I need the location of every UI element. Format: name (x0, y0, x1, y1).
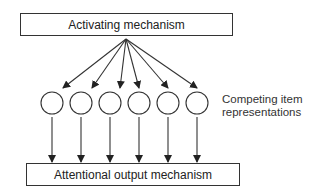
attentional-output-mechanism-box: Attentional output mechanism (26, 163, 240, 186)
side-label-line-2: representations (222, 106, 303, 119)
item-node-4 (128, 92, 150, 114)
item-node-6 (186, 92, 208, 114)
activating-mechanism-label: Activating mechanism (68, 18, 185, 32)
item-node-5 (157, 92, 179, 114)
side-label-line-1: Competing item (222, 93, 303, 106)
activating-mechanism-box: Activating mechanism (20, 13, 233, 36)
item-node-2 (70, 92, 92, 114)
item-node-3 (99, 92, 121, 114)
arrow-activating-to-item-1 (63, 39, 126, 88)
competing-item-representations-label: Competing item representations (222, 93, 303, 119)
item-node-1 (41, 92, 63, 114)
attentional-output-mechanism-label: Attentional output mechanism (54, 168, 212, 182)
